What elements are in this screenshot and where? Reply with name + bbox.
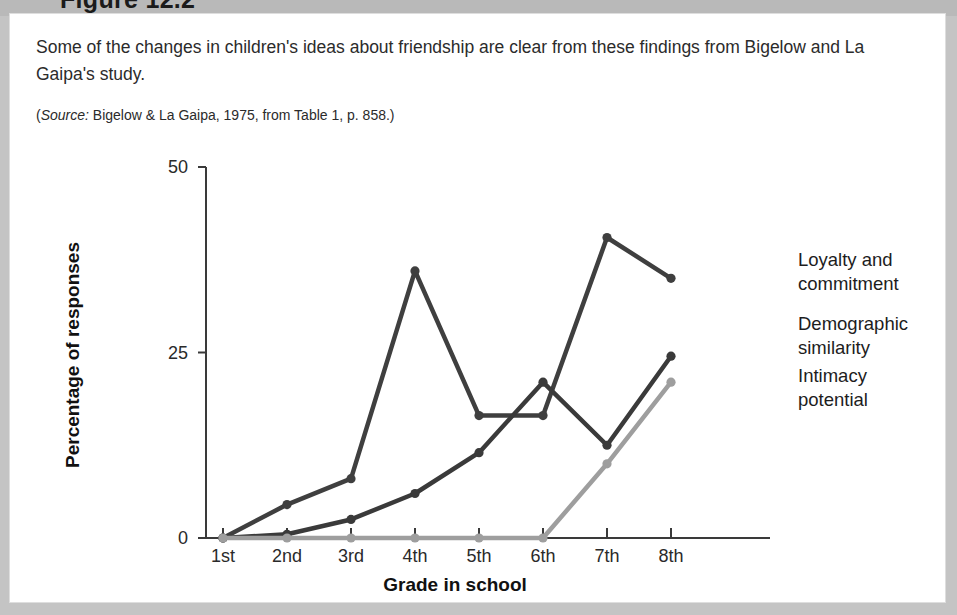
legend-label-line2: potential [798,389,868,410]
series-data-point [666,378,675,387]
series-data-point [410,266,419,275]
figure-card: Some of the changes in children's ideas … [10,14,945,602]
x-tick-label: 2nd [272,546,302,566]
chart-svg: 02550 1st2nd3rd4th5th6th7th8th Loyalty a… [10,134,945,602]
series-data-point [602,459,611,468]
chart-series [218,352,675,543]
legend-entry: Demographicsimilarity [798,313,908,358]
series-data-point [538,411,547,420]
series-data-point [474,533,483,542]
series-data-point [346,474,355,483]
figure-source-line: (Source: Bigelow & La Gaipa, 1975, from … [36,107,916,123]
x-tick-label: 4th [402,546,427,566]
series-data-point [410,489,419,498]
y-tick-label: 0 [178,528,188,548]
bottom-page-gutter [0,602,957,615]
series-data-point [474,448,483,457]
y-axis-ticks: 02550 [168,157,206,548]
series-data-point [666,352,675,361]
legend-entry: Loyalty andcommitment [798,249,899,294]
chart-series-layer [218,233,675,543]
series-line [223,237,671,538]
series-data-point [602,441,611,450]
y-tick-label: 50 [168,157,188,177]
series-data-point [346,515,355,524]
legend-label-line1: Loyalty and [798,249,893,270]
chart-legend: Loyalty andcommitmentDemographicsimilari… [798,249,908,410]
x-tick-label: 7th [594,546,619,566]
chart-series [218,233,675,543]
series-data-point [282,500,291,509]
x-axis-title: Grade in school [205,574,705,596]
x-tick-label: 3rd [338,546,364,566]
series-data-point [474,411,483,420]
chart-series [218,378,675,543]
series-data-point [666,274,675,283]
source-citation: Bigelow & La Gaipa, 1975, from Table 1, … [89,107,395,123]
series-data-point [602,233,611,242]
x-tick-label: 8th [658,546,683,566]
series-data-point [410,533,419,542]
legend-label-line1: Intimacy [798,365,868,386]
series-data-point [538,533,547,542]
chart-axes [206,167,770,538]
x-tick-label: 1st [211,546,235,566]
series-data-point [346,533,355,542]
x-tick-label: 5th [466,546,491,566]
y-tick-label: 25 [168,343,188,363]
legend-entry: Intimacypotential [798,365,868,410]
series-line [223,382,671,538]
series-data-point [282,533,291,542]
series-data-point [538,378,547,387]
y-axis-title: Percentage of responses [62,230,84,480]
left-page-gutter [0,0,10,615]
line-chart: 02550 1st2nd3rd4th5th6th7th8th Loyalty a… [10,134,945,602]
series-data-point [218,533,227,542]
legend-label-line1: Demographic [798,313,908,334]
legend-label-line2: similarity [798,337,871,358]
source-label: Source: [41,107,89,123]
x-tick-label: 6th [530,546,555,566]
figure-caption: Some of the changes in children's ideas … [36,34,916,88]
figure-number-title: Figure 12.2 [60,0,195,14]
legend-label-line2: commitment [798,273,899,294]
right-page-gutter [945,0,957,615]
